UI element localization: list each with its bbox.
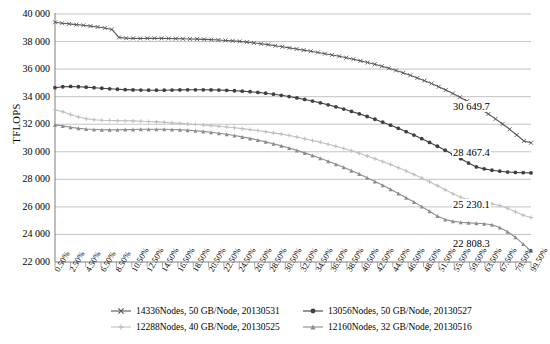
legend-item[interactable]: 12160Nodes, 32 GB/Node, 20130516	[302, 322, 494, 332]
y-axis-tick-label: 34 000	[2, 92, 50, 102]
y-axis-tick-label: 30 000	[2, 147, 50, 157]
y-axis-tick-label: 38 000	[2, 37, 50, 47]
legend-item-label: 12160Nodes, 32 GB/Node, 20130516	[328, 322, 472, 332]
legend-marker-icon	[302, 306, 324, 316]
legend-item[interactable]: 12288Nodes, 40 GB/Node, 20130525	[110, 322, 302, 332]
y-axis-tick-label: 22 000	[2, 257, 50, 267]
series-end-value-label: 25 230.1	[452, 199, 491, 210]
chart-legend: 14336Nodes, 50 GB/Node, 2013053113056Nod…	[110, 303, 510, 335]
legend-marker-icon	[302, 322, 324, 332]
series-end-value-label: 22 808.3	[452, 238, 491, 249]
series-end-value-label: 30 649.7	[452, 101, 491, 112]
legend-item-label: 14336Nodes, 50 GB/Node, 20130531	[136, 306, 280, 316]
series-end-value-label: 28 467.4	[452, 147, 491, 158]
y-axis-tick-label: 36 000	[2, 64, 50, 74]
y-axis-tick-label: 40 000	[2, 9, 50, 19]
legend-item[interactable]: 13056Nodes, 50 GB/Node, 20130527	[302, 306, 494, 316]
legend-item[interactable]: 14336Nodes, 50 GB/Node, 20130531	[110, 306, 302, 316]
y-axis-tick-label: 24 000	[2, 229, 50, 239]
legend-item-label: 13056Nodes, 50 GB/Node, 20130527	[328, 306, 472, 316]
legend-marker-icon	[110, 322, 132, 332]
y-axis-tick-label: 26 000	[2, 202, 50, 212]
legend-item-label: 12288Nodes, 40 GB/Node, 20130525	[136, 322, 280, 332]
y-axis-tick-label: 32 000	[2, 119, 50, 129]
legend-marker-icon	[110, 306, 132, 316]
y-axis-tick-label: 28 000	[2, 174, 50, 184]
